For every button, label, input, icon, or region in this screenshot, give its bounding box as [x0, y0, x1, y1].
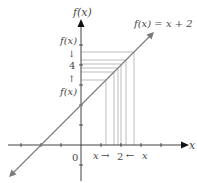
x-left-label: x — [93, 150, 99, 161]
fx-bottom-label: f(x) — [59, 86, 77, 97]
y-axis-arrow-icon — [78, 19, 85, 27]
x-axis-arrow-icon — [181, 142, 189, 149]
x-axis-label: x — [189, 139, 196, 152]
x-target-label: 2 — [117, 151, 123, 162]
down-arrow-icon: ↓ — [68, 49, 76, 59]
y-axis-label: f(x) — [72, 6, 92, 19]
guide-lines — [81, 52, 134, 145]
chart-svg: f(x) x f(x) = x + 2 0 f(x) ↓ 4 ↑ f(x) x … — [0, 0, 197, 183]
origin-label: 0 — [72, 152, 78, 163]
up-arrow-icon: ↑ — [68, 74, 76, 84]
fx-top-label: f(x) — [59, 35, 77, 46]
limit-graph-figure: f(x) x f(x) = x + 2 0 f(x) ↓ 4 ↑ f(x) x … — [0, 0, 197, 183]
x-right-label: x — [142, 150, 148, 161]
left-arrow-icon: ← — [126, 150, 134, 161]
function-label: f(x) = x + 2 — [133, 18, 193, 29]
fx-target-label: 4 — [69, 60, 75, 71]
right-arrow-icon: → — [101, 150, 110, 161]
